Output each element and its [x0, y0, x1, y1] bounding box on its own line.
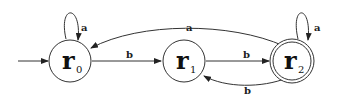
edge-r2-r2: [296, 13, 308, 40]
state-r2: r 2: [270, 39, 314, 83]
state-r0-sub: 0: [76, 64, 82, 75]
edge-r2-r1: [204, 76, 287, 85]
automaton-diagram: a b b a a b r 0 r 1 r 2: [0, 0, 341, 107]
state-r0: r 0: [49, 40, 91, 82]
edge-label-r2-r2: a: [314, 22, 321, 33]
edge-label-r1-r2: b: [243, 49, 250, 60]
edge-label-r0-r0: a: [81, 22, 88, 33]
state-r2-name: r: [284, 46, 297, 75]
edge-label-r2-r1: b: [244, 85, 251, 96]
edge-label-r2-r0: a: [186, 22, 193, 33]
state-r1-sub: 1: [190, 64, 196, 75]
edge-r0-r0: [64, 13, 78, 40]
edge-label-r0-r1: b: [126, 49, 133, 60]
state-r0-name: r: [62, 46, 75, 75]
state-r1-name: r: [176, 46, 189, 75]
state-r2-sub: 2: [298, 64, 304, 75]
state-r1: r 1: [163, 40, 205, 82]
